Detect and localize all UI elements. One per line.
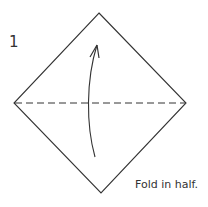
instruction-caption: Fold in half.: [135, 178, 198, 191]
step-number: 1: [9, 33, 19, 51]
fold-arrow-icon: [88, 45, 97, 157]
origami-diagram: [0, 0, 208, 207]
